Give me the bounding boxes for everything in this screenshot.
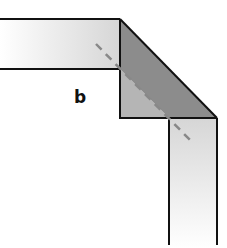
fold-illustration	[0, 0, 227, 248]
figure-label: b	[74, 89, 86, 106]
horizontal-band	[0, 19, 120, 69]
vertical-band	[169, 118, 217, 248]
mitered-fold-diagram: b	[0, 0, 227, 248]
